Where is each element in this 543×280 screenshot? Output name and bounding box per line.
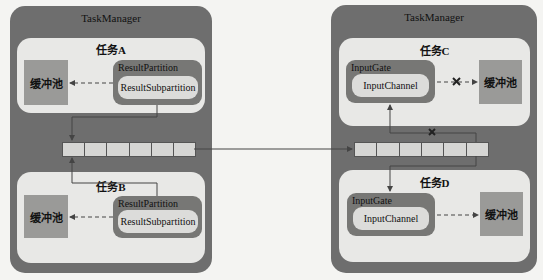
blocked-x-icon (429, 129, 435, 135)
task-b-to-queue-line (72, 158, 157, 196)
connection-lines (0, 0, 543, 280)
task-a-to-queue-line (72, 105, 157, 140)
queue-to-task-d-line (390, 156, 476, 191)
queue-to-task-c-line (390, 105, 476, 142)
